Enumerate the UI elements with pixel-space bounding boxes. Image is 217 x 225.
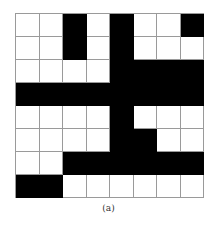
grid-cell-filled	[134, 152, 158, 175]
grid-cell-filled	[181, 60, 205, 83]
grid-cell-empty	[16, 37, 40, 60]
grid-cell-empty	[63, 106, 87, 129]
grid-cell-filled	[157, 60, 181, 83]
grid-cell-filled	[87, 83, 111, 106]
grid-cell-empty	[87, 106, 111, 129]
grid-cell-filled	[134, 129, 158, 152]
grid-cell-empty	[63, 60, 87, 83]
grid-cell-filled	[181, 152, 205, 175]
grid-cell-empty	[87, 60, 111, 83]
grid-cell-empty	[16, 14, 40, 37]
grid-cell-filled	[63, 14, 87, 37]
grid-cell-empty	[134, 14, 158, 37]
grid-cell-empty	[157, 175, 181, 198]
grid-cell-empty	[40, 14, 64, 37]
grid-cell-empty	[87, 129, 111, 152]
grid-cell-empty	[87, 14, 111, 37]
grid-cell-empty	[16, 106, 40, 129]
grid-cell-empty	[157, 37, 181, 60]
grid-cell-empty	[181, 175, 205, 198]
grid-cell-empty	[157, 129, 181, 152]
grid-cell-empty	[16, 129, 40, 152]
binary-grid	[15, 13, 204, 198]
grid-cell-filled	[157, 83, 181, 106]
grid-cell-empty	[40, 106, 64, 129]
grid-cell-filled	[87, 152, 111, 175]
grid-cell-empty	[63, 129, 87, 152]
grid-cell-empty	[87, 37, 111, 60]
grid-cell-filled	[110, 106, 134, 129]
grid-cell-filled	[16, 175, 40, 198]
grid-cell-filled	[110, 14, 134, 37]
grid-cell-filled	[110, 60, 134, 83]
grid-cell-empty	[134, 175, 158, 198]
grid-cell-filled	[63, 83, 87, 106]
grid-cell-filled	[40, 83, 64, 106]
grid-cell-empty	[87, 175, 111, 198]
grid-cell-empty	[40, 152, 64, 175]
grid-cell-empty	[40, 37, 64, 60]
grid-cell-filled	[157, 152, 181, 175]
grid-cell-empty	[157, 106, 181, 129]
grid-cell-empty	[157, 14, 181, 37]
grid-cell-filled	[181, 14, 205, 37]
grid-cell-empty	[16, 60, 40, 83]
grid-cell-filled	[40, 175, 64, 198]
grid-cell-empty	[40, 60, 64, 83]
grid-cell-empty	[110, 175, 134, 198]
grid-cell-filled	[134, 60, 158, 83]
grid-cell-empty	[181, 106, 205, 129]
grid-cell-empty	[63, 175, 87, 198]
grid-cell-filled	[110, 37, 134, 60]
grid-cell-empty	[181, 129, 205, 152]
grid-cell-filled	[110, 129, 134, 152]
grid-cell-empty	[181, 37, 205, 60]
grid-cell-filled	[110, 152, 134, 175]
grid-cell-empty	[134, 106, 158, 129]
grid-cell-empty	[40, 129, 64, 152]
grid-cell-filled	[63, 37, 87, 60]
grid-cell-filled	[181, 83, 205, 106]
grid-cell-filled	[63, 152, 87, 175]
grid-cell-filled	[110, 83, 134, 106]
grid-cell-empty	[134, 37, 158, 60]
grid-cell-filled	[16, 83, 40, 106]
grid-cell-filled	[134, 83, 158, 106]
grid-cell-empty	[16, 152, 40, 175]
figure-caption: (a)	[0, 203, 217, 213]
